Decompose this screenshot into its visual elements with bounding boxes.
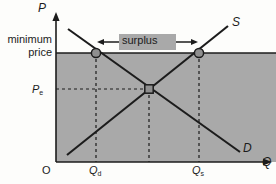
qd-letter: Q [89,164,98,176]
demand-curve-label: D [243,142,252,154]
q-axis-label: Q [262,156,271,168]
origin-label: O [42,164,51,176]
minimum-price-label: minimum price [2,33,52,59]
point-qd-marker [91,48,100,57]
surplus-arrow-left-head [97,39,104,45]
qs-subscript: s [201,170,205,177]
quantity-demanded-label: Qd [89,164,101,178]
quantity-supplied-label: Qs [192,164,204,178]
point-qs-marker [194,48,203,57]
supply-curve-label: S [232,16,240,28]
surplus-arrow-right-head [191,39,198,45]
equilibrium-price-subscript: e [39,89,43,96]
qs-letter: Q [192,164,201,176]
supply-demand-diagram: minimum price Pe P Q O Qd Qs S D surplus [0,0,276,184]
qd-subscript: d [98,170,102,177]
point-equilibrium-marker [145,85,153,93]
surplus-label: surplus [122,34,157,46]
y-axis-arrowhead [52,12,59,21]
equilibrium-price-label: Pe [32,83,43,97]
p-axis-label: P [38,2,46,14]
